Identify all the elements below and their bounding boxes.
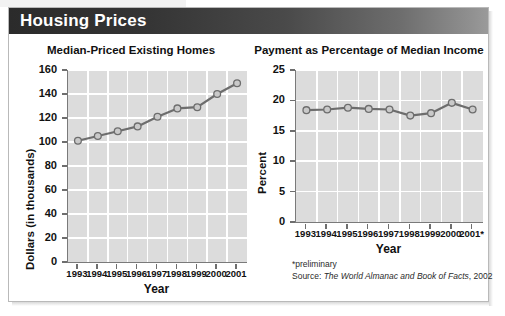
y-axis-title: Dollars (in thousands) xyxy=(24,149,36,270)
y-axis-tick-mark xyxy=(62,189,67,191)
footnote-source: Source: The World Almanac and Book of Fa… xyxy=(292,270,482,282)
y-axis-tick-label: 15 xyxy=(250,124,285,136)
y-axis-tick-mark xyxy=(62,117,67,119)
series-line-group xyxy=(296,70,483,222)
y-axis-tick-mark xyxy=(290,191,295,193)
data-point-marker xyxy=(134,123,141,130)
top-edge-strip xyxy=(0,0,186,7)
series-line-group xyxy=(68,70,247,262)
data-point-marker xyxy=(234,80,241,87)
chart-payment-as-percentage-of-median-income: Payment as Percentage of Median Income05… xyxy=(250,44,488,256)
y-axis-tick-mark xyxy=(62,69,67,71)
data-point-marker xyxy=(114,128,121,135)
y-axis-tick-mark xyxy=(62,93,67,95)
y-axis-tick-mark xyxy=(290,221,295,223)
chart-title: Median-Priced Existing Homes xyxy=(20,44,242,56)
data-point-marker xyxy=(428,110,435,117)
y-axis-tick-mark xyxy=(62,237,67,239)
data-point-marker xyxy=(386,106,393,113)
y-axis-tick-mark xyxy=(62,141,67,143)
data-point-marker xyxy=(345,104,352,111)
page-title: Housing Prices xyxy=(20,11,147,31)
chart-median-priced-existing-homes: Median-Priced Existing Homes020406080100… xyxy=(14,44,242,296)
data-point-marker xyxy=(365,106,372,113)
card-shadow-bottom xyxy=(12,302,493,306)
footnotes: *preliminary Source: The World Almanac a… xyxy=(292,258,482,282)
infographic-page: Housing Prices Median-Priced Existing Ho… xyxy=(0,0,505,316)
y-axis-tick-mark xyxy=(290,160,295,162)
y-axis-tick-mark xyxy=(290,69,295,71)
y-axis-tick-label: 20 xyxy=(250,93,285,105)
data-point-marker xyxy=(194,104,201,111)
series-line xyxy=(78,83,237,141)
footnote-preliminary: *preliminary xyxy=(292,258,482,270)
y-axis-tick-label: 140 xyxy=(20,87,57,99)
source-title: The World Almanac and Book of Facts xyxy=(324,271,469,281)
y-axis-tick-mark xyxy=(62,165,67,167)
card-shadow-right xyxy=(489,11,493,306)
data-point-marker xyxy=(154,113,161,120)
y-axis-tick-mark xyxy=(290,130,295,132)
data-point-marker xyxy=(75,137,82,144)
data-point-marker xyxy=(407,112,414,119)
y-axis-tick-mark xyxy=(62,261,67,263)
x-axis-tick-label: 2001* xyxy=(457,228,486,239)
x-axis-title: Year xyxy=(67,282,246,296)
source-suffix: , 2002 xyxy=(469,271,493,281)
y-axis-tick-label: 160 xyxy=(20,63,57,75)
data-point-marker xyxy=(214,91,221,98)
data-point-marker xyxy=(94,133,101,140)
x-axis-tick-label: 2001 xyxy=(222,268,250,279)
data-point-marker xyxy=(448,99,455,106)
source-prefix: Source: xyxy=(292,271,324,281)
plot-area xyxy=(295,70,483,223)
y-axis-tick-label: 100 xyxy=(20,135,57,147)
y-axis-title: Percent xyxy=(256,152,268,194)
plot-area xyxy=(67,70,247,263)
y-axis-tick-label: 25 xyxy=(250,63,285,75)
data-point-marker xyxy=(469,106,476,113)
data-point-marker xyxy=(324,106,331,113)
y-axis-tick-mark xyxy=(290,100,295,102)
chart-title: Payment as Percentage of Median Income xyxy=(250,44,488,56)
y-axis-tick-label: 120 xyxy=(20,111,57,123)
y-axis-tick-label: 0 xyxy=(250,215,285,227)
data-point-marker xyxy=(174,105,181,112)
x-axis-title: Year xyxy=(295,242,482,256)
y-axis-tick-mark xyxy=(62,213,67,215)
data-point-marker xyxy=(303,107,310,114)
